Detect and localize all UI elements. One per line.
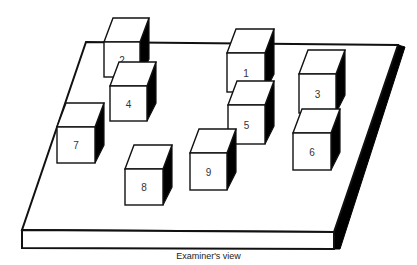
cube-number-label: 6 (309, 147, 315, 158)
cube-8: 8 (125, 145, 172, 205)
cube-7: 7 (57, 103, 104, 163)
cube-3: 3 (299, 50, 345, 113)
cube-number-label: 5 (244, 120, 250, 131)
cube-top-face (293, 109, 340, 133)
cube-number-label: 4 (126, 99, 132, 110)
cube-board-diagram: 213457698 (0, 0, 417, 265)
cube-top-face (125, 145, 172, 169)
cube-number-label: 3 (315, 89, 321, 100)
cube-6: 6 (293, 109, 340, 170)
cube-9: 9 (190, 129, 236, 190)
cube-number-label: 1 (243, 68, 249, 79)
figure-caption: Examiner's view (0, 251, 417, 261)
cube-4: 4 (110, 62, 156, 121)
cube-number-label: 9 (206, 167, 212, 178)
cube-number-label: 7 (73, 140, 79, 151)
board-front-edge (22, 230, 334, 249)
cube-top-face (227, 29, 274, 53)
cube-number-label: 8 (141, 182, 147, 193)
cube-top-face (57, 103, 104, 127)
